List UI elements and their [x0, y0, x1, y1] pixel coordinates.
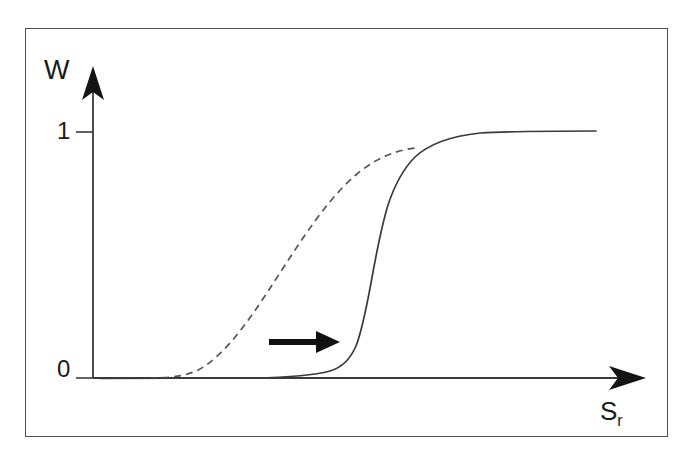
plot-graphics	[0, 0, 694, 463]
shift-arrow-head-icon	[316, 331, 340, 353]
x-axis-label-subscript: r	[617, 412, 622, 429]
y-tick-label-one: 1	[57, 119, 70, 143]
y-axis-label: W	[44, 57, 69, 84]
curve-shifted-solid	[100, 131, 596, 379]
figure-canvas: W Sr 1 0	[0, 0, 694, 463]
x-axis-label: Sr	[600, 398, 623, 429]
x-axis-label-base: S	[600, 396, 617, 426]
y-tick-label-zero: 0	[57, 357, 70, 381]
shift-arrow-annotation	[269, 331, 340, 353]
